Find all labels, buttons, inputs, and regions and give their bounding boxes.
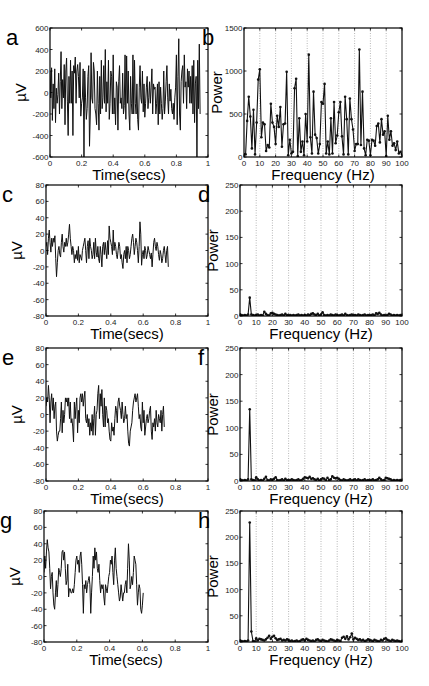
y-tick-label: 1500 (225, 24, 243, 33)
x-tick-label: 0 (48, 159, 53, 168)
x-axis-label: Frequency (Hz) (271, 166, 374, 183)
data-marker (312, 90, 315, 93)
y-tick-label: -200 (32, 110, 49, 119)
panel-letter: a (6, 25, 19, 50)
data-marker (364, 154, 367, 157)
data-marker (326, 477, 329, 480)
data-marker (295, 77, 298, 80)
y-tick-label: 20 (34, 556, 43, 565)
y-tick-label: -60 (33, 460, 45, 469)
y-tick-label: 400 (35, 46, 49, 55)
y-tick-label: -80 (33, 312, 45, 321)
x-tick-label: 1 (206, 318, 211, 327)
panel-f: f0102030405060708090100050100150200250Fr… (198, 344, 409, 507)
data-marker (317, 152, 320, 155)
data-line (46, 385, 164, 446)
y-tick-label: 100 (225, 586, 239, 595)
y-tick-label: 200 (225, 533, 239, 542)
data-marker (347, 638, 350, 641)
y-axis-label: µV (8, 241, 25, 260)
data-marker (281, 145, 284, 148)
x-tick-label: 1 (206, 159, 211, 168)
x-tick-label: 0.2 (73, 318, 85, 327)
y-tick-label: 250 (225, 507, 239, 516)
data-marker (325, 152, 328, 155)
y-tick-label: 0 (44, 89, 49, 98)
y-tick-label: 250 (225, 181, 239, 190)
data-marker (336, 134, 339, 137)
axes-frame (244, 28, 402, 157)
y-tick-label: 0 (238, 153, 243, 162)
data-marker (306, 140, 309, 143)
y-tick-label: 250 (225, 344, 239, 353)
data-marker (372, 139, 375, 142)
x-axis-label: Time(secs) (90, 490, 164, 507)
y-tick-label: 80 (36, 344, 45, 353)
x-axis-label: Frequency (Hz) (269, 490, 372, 507)
data-marker (268, 146, 271, 149)
panel-g: g00.20.40.60.81-80-60-40-20020406080Time… (0, 507, 211, 668)
data-marker (374, 145, 377, 148)
y-tick-label: -60 (31, 622, 43, 631)
data-marker (289, 139, 292, 142)
panel-e: e00.20.40.60.81-80-60-40-20020406080Time… (2, 344, 211, 507)
figure: a00.20.40.60.81-600-400-2000200400600Tim… (0, 0, 429, 686)
data-marker (249, 115, 252, 118)
data-marker (342, 635, 345, 638)
y-tick-label: 60 (34, 523, 43, 532)
y-tick-label: 0 (38, 573, 43, 582)
y-tick-label: -40 (31, 605, 43, 614)
data-marker (255, 121, 258, 124)
data-marker (347, 153, 350, 156)
data-marker (265, 475, 268, 478)
data-marker (361, 90, 364, 93)
data-marker (263, 123, 266, 126)
data-marker (248, 296, 251, 299)
x-tick-label: 10 (252, 644, 261, 653)
data-marker (391, 145, 394, 148)
y-tick-label: -80 (33, 477, 45, 486)
data-marker (360, 144, 363, 147)
data-marker (271, 121, 274, 124)
data-marker (333, 101, 336, 104)
data-marker (386, 114, 389, 117)
data-marker (334, 142, 337, 145)
y-tick-label: 50 (230, 450, 239, 459)
y-tick-label: 0 (234, 477, 239, 486)
y-axis-label: µV (12, 83, 29, 102)
data-marker (247, 639, 250, 642)
y-tick-label: -20 (31, 589, 43, 598)
x-tick-label: 10 (252, 318, 261, 327)
panel-c: c00.20.40.60.81-80-60-40-20020406080Time… (2, 181, 211, 342)
x-tick-label: 0.8 (170, 318, 182, 327)
y-tick-label: 0 (234, 312, 239, 321)
y-tick-label: 200 (225, 371, 239, 380)
x-axis-label: Frequency (Hz) (269, 325, 372, 342)
x-tick-label: 0 (238, 644, 243, 653)
y-tick-label: 150 (225, 559, 239, 568)
y-tick-label: 40 (36, 214, 45, 223)
x-tick-label: 100 (395, 318, 409, 327)
data-marker (338, 111, 341, 114)
y-tick-label: 40 (36, 377, 45, 386)
data-marker (353, 150, 356, 153)
data-marker (301, 140, 304, 143)
y-axis-label: µV (6, 567, 23, 586)
y-tick-label: -40 (33, 444, 45, 453)
y-axis-label: Power (204, 555, 221, 598)
y-tick-label: 80 (36, 181, 45, 190)
data-marker (349, 636, 352, 639)
data-marker (266, 637, 269, 640)
data-marker (339, 101, 342, 104)
data-marker (344, 638, 347, 641)
data-marker (263, 311, 266, 314)
data-marker (304, 113, 307, 116)
data-marker (350, 632, 353, 635)
data-marker (273, 126, 276, 129)
x-tick-label: 0.2 (73, 483, 85, 492)
x-tick-label: 0.8 (171, 159, 183, 168)
data-marker (255, 476, 258, 479)
panel-letter: g (0, 508, 12, 533)
x-tick-label: 90 (382, 159, 391, 168)
data-marker (248, 408, 251, 411)
